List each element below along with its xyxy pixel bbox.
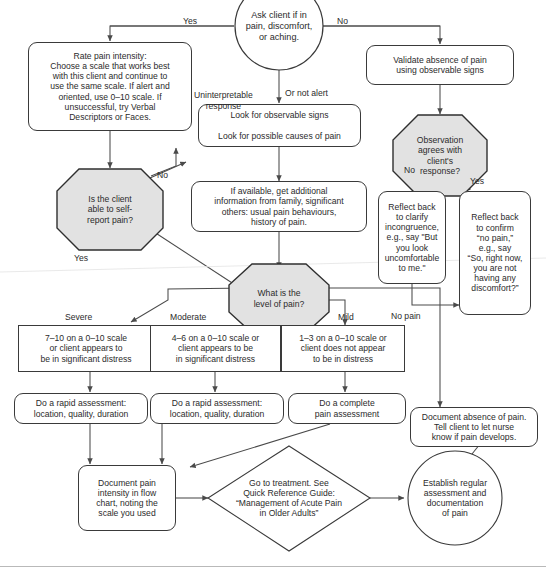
node-start-label: Ask client if in pain, discomfort, or ac…: [246, 10, 313, 42]
edge-label-no-pain-text: No pain: [391, 311, 421, 321]
edge-label-yes-top-left: Yes: [183, 16, 197, 26]
node-rate-pain-intensity[interactable]: Rate pain intensity: Choose a scale that…: [28, 42, 192, 131]
edge-label-moderate: Moderate: [170, 312, 206, 322]
edge-label-mild-text: Mild: [338, 312, 354, 322]
edge-label-severe: Severe: [65, 312, 92, 322]
node-rate-pain-intensity-label: Rate pain intensity: Choose a scale that…: [50, 51, 169, 122]
node-additional-information-label: If available, get additional information…: [214, 186, 343, 227]
edge-label-no-self-report-text: No: [157, 170, 168, 180]
edge-label-yes-observation: Yes: [470, 176, 484, 186]
edge-label-no-top-right-text: No: [337, 16, 348, 26]
edge-label-no-self-report: No: [157, 170, 168, 180]
edge-label-or-not-alert: Or not alert: [285, 88, 328, 98]
node-severe-criteria[interactable]: 7–10 on a 0–10 scale or client appears t…: [18, 325, 154, 372]
edge-label-no-observation: No: [404, 165, 415, 175]
edge-label-severe-text: Severe: [65, 312, 92, 322]
node-rapid-assessment-moderate[interactable]: Do a rapid assessment: location, quality…: [150, 393, 284, 424]
edge-label-or-not-alert-text: Or not alert: [285, 88, 328, 98]
edge-label-mild: Mild: [338, 312, 354, 322]
node-look-for-signs-label: Look for observable signs Look for possi…: [218, 110, 341, 140]
node-document-absence[interactable]: Document absence of pain. Tell client to…: [410, 407, 538, 447]
node-go-to-treatment[interactable]: Go to treatment. See Quick Reference Gui…: [216, 471, 362, 525]
node-self-report-decision[interactable]: Is the client able to self- report pain?: [57, 169, 163, 250]
node-severe-criteria-label: 7–10 on a 0–10 scale or client appears t…: [40, 333, 131, 363]
node-establish-regular[interactable]: Establish regular assessment and documen…: [411, 470, 499, 526]
node-rapid-assessment-severe-label: Do a rapid assessment: location, quality…: [34, 398, 128, 418]
node-complete-assessment-label: Do a complete pain assessment: [315, 398, 380, 418]
node-mild-criteria-label: 1–3 on a 0–10 scale or client does not a…: [299, 333, 386, 363]
edge-label-yes-self-report: Yes: [74, 253, 88, 263]
edge-label-no-top-right: No: [337, 16, 348, 26]
edge-label-uninterpretable-response-text: Uninterpretable response: [194, 90, 253, 110]
node-establish-regular-label: Establish regular assessment and documen…: [423, 478, 487, 519]
node-document-pain-intensity[interactable]: Document pain intensity in flow chart, n…: [78, 465, 176, 531]
edge-label-no-pain: No pain: [391, 311, 421, 321]
node-reflect-clarify[interactable]: Reflect back to clarify incongruence, e.…: [378, 191, 446, 284]
node-level-of-pain-decision[interactable]: What is the level of pain?: [229, 264, 329, 333]
page-bottom-rule: [0, 566, 546, 567]
node-document-pain-intensity-label: Document pain intensity in flow chart, n…: [96, 478, 158, 519]
node-validate-absence-label: Validate absence of pain using observabl…: [393, 55, 487, 75]
node-validate-absence[interactable]: Validate absence of pain using observabl…: [366, 45, 514, 85]
node-rapid-assessment-moderate-label: Do a rapid assessment: location, quality…: [170, 398, 264, 418]
node-moderate-criteria[interactable]: 4–6 on a 0–10 scale or client appears to…: [150, 325, 281, 372]
node-reflect-clarify-label: Reflect back to clarify incongruence, e.…: [385, 202, 439, 273]
node-self-report-decision-label: Is the client able to self- report pain?: [57, 169, 163, 250]
node-reflect-confirm[interactable]: Reflect back to confirm “no pain,” e.g.,…: [459, 191, 531, 315]
node-level-of-pain-decision-label: What is the level of pain?: [229, 264, 329, 333]
edge-label-moderate-text: Moderate: [170, 312, 206, 322]
node-moderate-criteria-label: 4–6 on a 0–10 scale or client appears to…: [172, 333, 259, 363]
edge-label-yes-top-left-text: Yes: [183, 16, 197, 26]
edge-label-yes-self-report-text: Yes: [74, 253, 88, 263]
edge-label-yes-observation-text: Yes: [470, 176, 484, 186]
node-start[interactable]: Ask client if in pain, discomfort, or ac…: [235, 4, 323, 49]
node-mild-criteria[interactable]: 1–3 on a 0–10 scale or client does not a…: [281, 325, 405, 372]
node-complete-assessment[interactable]: Do a complete pain assessment: [288, 393, 406, 424]
node-additional-information[interactable]: If available, get additional information…: [191, 181, 367, 232]
edge-label-no-observation-text: No: [404, 165, 415, 175]
flowchart-canvas: Ask client if in pain, discomfort, or ac…: [0, 0, 546, 571]
node-rapid-assessment-severe[interactable]: Do a rapid assessment: location, quality…: [14, 393, 148, 424]
edge-label-uninterpretable-response: Uninterpretable response: [194, 80, 253, 111]
node-go-to-treatment-label: Go to treatment. See Quick Reference Gui…: [236, 478, 342, 519]
node-reflect-confirm-label: Reflect back to confirm “no pain,” e.g.,…: [468, 212, 523, 293]
node-document-absence-label: Document absence of pain. Tell client to…: [422, 412, 527, 442]
